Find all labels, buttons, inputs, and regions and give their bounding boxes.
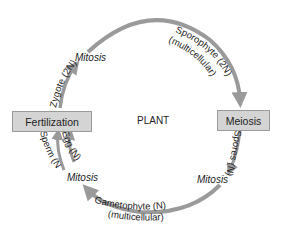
fertilization-node: Fertilization xyxy=(12,111,92,132)
egg-label: Egg (N) xyxy=(60,130,84,163)
meiosis-node: Meiosis xyxy=(217,110,270,131)
gametophyte-label: Gametophyte (N) xyxy=(93,194,166,212)
zygote-label: Zygote (2N) xyxy=(47,57,78,108)
mitosis-right-label: Mitosis xyxy=(197,174,228,185)
plant-title: PLANT xyxy=(137,115,169,126)
spores-label: Spores (N) xyxy=(224,130,244,178)
mitosis-top-label: Mitosis xyxy=(75,52,106,63)
mitosis-left-label: Mitosis xyxy=(67,172,98,183)
